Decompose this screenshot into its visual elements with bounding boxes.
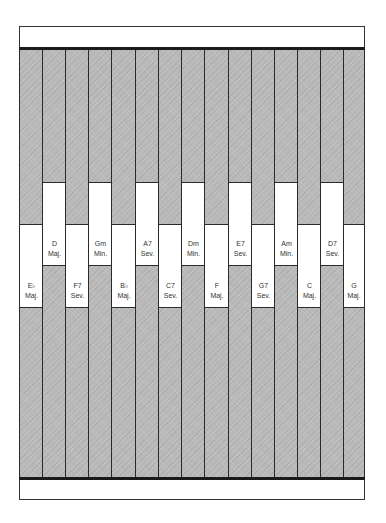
chord-quality: Sev. — [229, 249, 252, 259]
chord-root: C7 — [159, 281, 182, 291]
chord-root: F — [205, 281, 229, 291]
chord-box: D7Sev. — [321, 182, 344, 266]
chord-strip: G7Sev. — [251, 50, 275, 477]
chord-label: A7Sev. — [136, 239, 159, 259]
chord-label: GMaj. — [344, 281, 364, 301]
chord-strip: E♭Maj. — [19, 50, 43, 477]
chord-label: DmMin. — [182, 239, 205, 259]
chord-quality: Maj. — [344, 291, 364, 301]
chord-label: E7Sev. — [229, 239, 252, 259]
chord-root: C — [298, 281, 321, 291]
chord-strip: CMaj. — [297, 50, 321, 477]
chord-box: B♭Maj. — [112, 224, 136, 308]
chord-strip-area: E♭Maj.DMaj.F7Sev.GmMin.B♭Maj.A7Sev.C7Sev… — [19, 50, 365, 477]
top-bar — [19, 26, 365, 47]
chord-label: F7Sev. — [66, 281, 89, 301]
chord-box: E♭Maj. — [20, 224, 43, 308]
chord-box: C7Sev. — [159, 224, 182, 308]
chord-quality: Min. — [182, 249, 205, 259]
chord-strip: GMaj. — [343, 50, 365, 477]
chord-box: E7Sev. — [229, 182, 252, 266]
chord-strip: DmMin. — [181, 50, 205, 477]
chord-quality: Min. — [275, 249, 298, 259]
chord-strip: D7Sev. — [320, 50, 344, 477]
chord-box: GmMin. — [89, 182, 112, 266]
chord-strip: C7Sev. — [158, 50, 182, 477]
chord-box: AmMin. — [275, 182, 298, 266]
chord-label: D7Sev. — [321, 239, 344, 259]
chord-root: G — [344, 281, 364, 291]
chord-label: E♭Maj. — [20, 281, 43, 301]
chord-quality: Sev. — [159, 291, 182, 301]
chord-quality: Sev. — [66, 291, 89, 301]
chord-quality: Maj. — [43, 249, 66, 259]
chord-strip: DMaj. — [42, 50, 66, 477]
chord-quality: Sev. — [252, 291, 275, 301]
chord-quality: Maj. — [20, 291, 43, 301]
chord-quality: Maj. — [298, 291, 321, 301]
chord-root: Dm — [182, 239, 205, 249]
chord-label: GmMin. — [89, 239, 112, 259]
chord-strip: GmMin. — [88, 50, 112, 477]
chord-root: D7 — [321, 239, 344, 249]
chord-box: DmMin. — [182, 182, 205, 266]
chord-quality: Maj. — [112, 291, 136, 301]
chord-root: G7 — [252, 281, 275, 291]
chord-box: DMaj. — [43, 182, 66, 266]
chord-root: Gm — [89, 239, 112, 249]
chord-box: G7Sev. — [252, 224, 275, 308]
chord-label: AmMin. — [275, 239, 298, 259]
chord-label: G7Sev. — [252, 281, 275, 301]
chord-root: E7 — [229, 239, 252, 249]
chord-label: B♭Maj. — [112, 281, 136, 301]
chord-strip: F7Sev. — [65, 50, 89, 477]
chord-label: CMaj. — [298, 281, 321, 301]
chord-box: GMaj. — [344, 224, 364, 308]
chord-label: DMaj. — [43, 239, 66, 259]
chord-box: FMaj. — [205, 224, 229, 308]
chord-label: C7Sev. — [159, 281, 182, 301]
chord-label: FMaj. — [205, 281, 229, 301]
chord-strip: AmMin. — [274, 50, 298, 477]
bottom-bar — [19, 480, 365, 500]
chord-quality: Sev. — [321, 249, 344, 259]
chord-root: B♭ — [112, 281, 136, 291]
chord-strip: E7Sev. — [228, 50, 252, 477]
chord-box: F7Sev. — [66, 224, 89, 308]
chord-strip: FMaj. — [204, 50, 229, 477]
chord-root: A7 — [136, 239, 159, 249]
chord-box: A7Sev. — [136, 182, 159, 266]
chord-quality: Maj. — [205, 291, 229, 301]
chord-root: Am — [275, 239, 298, 249]
chord-quality: Sev. — [136, 249, 159, 259]
chord-root: D — [43, 239, 66, 249]
chord-strip: B♭Maj. — [111, 50, 136, 477]
chord-root: E♭ — [20, 281, 43, 291]
chord-root: F7 — [66, 281, 89, 291]
chord-box: CMaj. — [298, 224, 321, 308]
chord-strip: A7Sev. — [135, 50, 159, 477]
chord-quality: Min. — [89, 249, 112, 259]
